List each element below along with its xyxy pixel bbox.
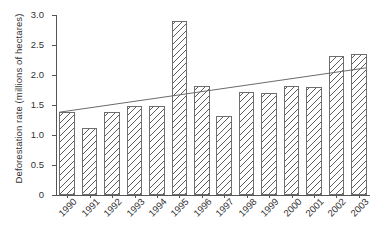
y-tick-label: 0 <box>0 189 44 200</box>
y-tick-label: 1.0 <box>0 129 44 140</box>
trend-line <box>56 15 370 195</box>
y-tick-label: 0.5 <box>0 159 44 170</box>
y-tick-label: 2.5 <box>0 39 44 50</box>
y-tick-label: 3.0 <box>0 9 44 20</box>
y-tick-label: 1.5 <box>0 99 44 110</box>
deforestation-bar-chart: Deforestation rate (millions of hectares… <box>0 0 379 246</box>
x-axis-labels: 1990199119921993199419951996199719981999… <box>56 196 370 246</box>
y-tick-label: 2.0 <box>0 69 44 80</box>
plot-area: 3.02.52.01.51.00.50 <box>56 15 370 195</box>
trend-line-segment <box>59 68 366 112</box>
